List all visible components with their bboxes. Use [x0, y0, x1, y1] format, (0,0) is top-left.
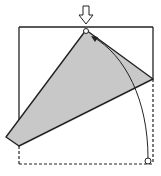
push-down-arrow-icon — [79, 6, 93, 24]
top-point-marker — [84, 29, 89, 34]
origami-diagram — [0, 0, 161, 176]
corner-point-marker — [145, 158, 151, 164]
folded-flap — [6, 30, 153, 146]
